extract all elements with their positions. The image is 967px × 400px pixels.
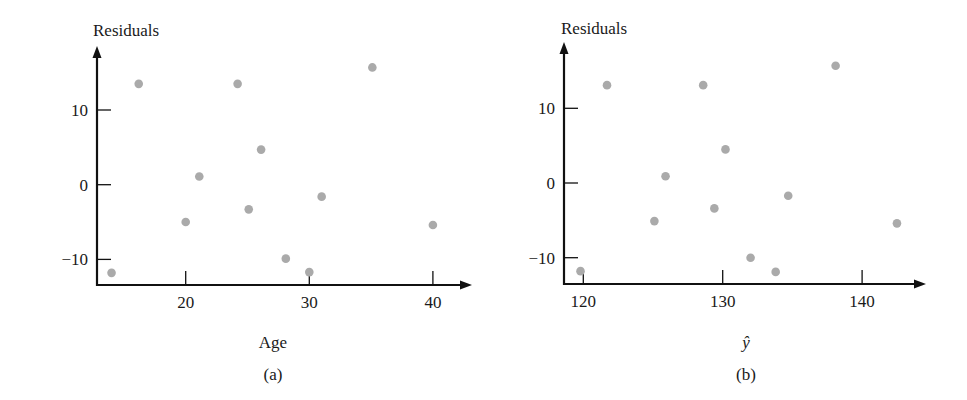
panel-caption: (a) — [264, 365, 283, 384]
data-point — [721, 145, 730, 154]
x-axis-label: ŷ — [740, 333, 750, 352]
data-point — [661, 172, 670, 181]
data-point — [134, 80, 143, 89]
data-point — [603, 81, 612, 90]
data-point — [257, 145, 266, 154]
y-tick-label: 10 — [71, 101, 88, 120]
x-tick-label: 140 — [849, 292, 875, 311]
data-point — [317, 192, 326, 201]
data-point — [107, 269, 116, 278]
data-point — [746, 253, 755, 262]
y-tick-label: 0 — [547, 174, 556, 193]
data-point — [650, 217, 659, 226]
data-point — [233, 80, 242, 89]
y-tick-label: −10 — [61, 250, 88, 269]
y-tick-label: 0 — [80, 176, 89, 195]
x-tick-label: 130 — [710, 292, 736, 311]
x-tick-label: 40 — [424, 293, 441, 312]
y-axis-label: Residuals — [93, 21, 159, 40]
x-tick-label: 30 — [301, 293, 318, 312]
data-point — [784, 191, 793, 200]
y-tick-label: −10 — [528, 249, 555, 268]
data-point — [368, 63, 377, 72]
data-point — [244, 205, 253, 214]
data-point — [429, 221, 438, 230]
y-axis-arrow-icon — [560, 42, 569, 54]
residual-plots-figure: 100−10203040ResidualsAge(a) 100−10120130… — [0, 0, 967, 400]
data-point — [576, 267, 585, 276]
data-point — [195, 172, 204, 181]
y-axis-label: Residuals — [561, 19, 627, 38]
x-axis-arrow-icon — [914, 280, 926, 289]
x-axis-label: Age — [259, 333, 287, 352]
data-point — [893, 219, 902, 228]
y-axis-arrow-icon — [93, 46, 102, 58]
x-tick-label: 20 — [177, 293, 194, 312]
x-tick-label: 120 — [571, 292, 597, 311]
data-point — [305, 268, 314, 277]
data-point — [710, 204, 719, 213]
panel-caption: (b) — [736, 365, 756, 384]
residuals-vs-fitted-plot: 100−10120130140Residualsŷ(b) — [528, 19, 926, 384]
data-point — [831, 61, 840, 70]
data-point — [771, 268, 780, 277]
residuals-vs-age-plot: 100−10203040ResidualsAge(a) — [61, 21, 472, 384]
x-axis-arrow-icon — [460, 281, 472, 290]
data-point — [699, 81, 708, 90]
data-point — [181, 218, 190, 227]
data-point — [282, 254, 291, 263]
y-tick-label: 10 — [538, 99, 555, 118]
